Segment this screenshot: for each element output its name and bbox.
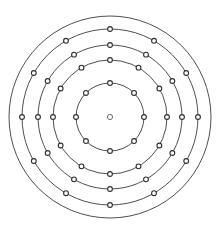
node-marker [79,164,84,169]
node-marker [64,38,69,43]
node-marker [45,79,50,84]
node-marker [79,65,84,70]
node-marker [196,115,201,120]
node-marker [144,177,149,182]
node-marker [108,149,113,154]
node-marker [157,86,162,91]
center-layer [107,114,112,119]
node-marker [136,164,141,169]
node-marker [152,191,157,196]
node-marker [64,191,69,196]
node-marker [72,52,77,57]
node-marker [108,172,113,177]
node-marker [184,71,189,76]
node-marker [72,177,77,182]
node-marker [184,159,189,164]
node-marker [45,151,50,156]
node-marker [51,115,56,120]
node-marker [142,115,147,120]
node-marker [165,115,170,120]
node-marker [108,27,113,32]
node-marker [31,159,36,164]
node-marker [108,81,113,86]
node-marker [108,58,113,63]
concentric-ring-diagram [0,0,220,233]
node-marker [170,79,175,84]
node-marker [108,187,113,192]
node-marker [20,115,25,120]
node-marker [170,151,175,156]
node-marker [180,115,185,120]
node-marker [144,52,149,57]
node-marker [74,115,79,120]
node-marker [136,65,141,70]
node-marker [58,86,63,91]
node-marker [132,139,137,144]
center-node [107,114,112,119]
node-marker [36,115,41,120]
node-marker [152,38,157,43]
node-marker [108,43,113,48]
node-marker [108,203,113,208]
node-marker [84,91,89,96]
node-marker [84,139,89,144]
node-marker [132,91,137,96]
node-marker [31,71,36,76]
node-marker [157,143,162,148]
concentric-ring-canvas [0,0,220,233]
node-marker [58,143,63,148]
